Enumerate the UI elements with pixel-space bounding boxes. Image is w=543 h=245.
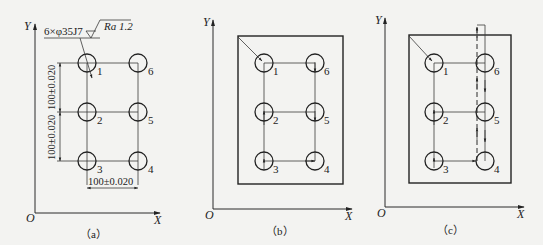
figure-canvas: Y O X 1 2 3 4 5 6 6×φ35J7 — [0, 0, 543, 245]
hole-label-4: 4 — [148, 163, 154, 175]
hole-label-5: 5 — [494, 114, 500, 126]
hole-label-1: 1 — [97, 65, 103, 77]
panel-c: Y O X — [375, 13, 525, 236]
hole-label-6: 6 — [148, 65, 154, 77]
roughness-text: Ra 1.2 — [103, 20, 133, 32]
figure-svg: Y O X 1 2 3 4 5 6 6×φ35J7 — [0, 0, 543, 245]
dim-vertical-lower: 100±0.020 — [46, 115, 57, 160]
dim-vertical-upper: 100±0.020 — [46, 65, 57, 110]
workpiece-outline — [238, 36, 343, 184]
caption-a: （a） — [80, 228, 107, 240]
caption-c: （c） — [437, 224, 464, 236]
y-axis-label: Y — [203, 15, 211, 29]
hole-label-2: 2 — [273, 114, 279, 126]
hole-label-5: 5 — [324, 114, 330, 126]
x-axis-label: X — [516, 207, 525, 221]
origin-label: O — [26, 211, 35, 225]
tool-path — [409, 25, 485, 168]
hole-label-3: 3 — [443, 163, 449, 175]
hole-label-6: 6 — [494, 65, 500, 77]
origin-label: O — [205, 208, 214, 222]
y-axis-label: Y — [24, 19, 32, 33]
origin-label: O — [377, 206, 386, 220]
hole-label-3: 3 — [273, 163, 279, 175]
roughness-symbol: Ra 1.2 — [86, 20, 133, 38]
horizontal-dimension: 100±0.020 — [87, 176, 138, 188]
caption-b: （b） — [266, 225, 294, 237]
y-axis-label: Y — [375, 13, 383, 27]
dim-horizontal: 100±0.020 — [88, 176, 133, 187]
hole-label-5: 5 — [148, 114, 154, 126]
panel-b: Y O X 1 2 3 4 5 6 — [203, 15, 353, 237]
hole-label-6: 6 — [324, 65, 330, 77]
hole-label-1: 1 — [443, 65, 449, 77]
hole-label-4: 4 — [324, 163, 330, 175]
hole-label-2: 2 — [443, 114, 449, 126]
hole-label-1: 1 — [273, 65, 279, 77]
hole-label-2: 2 — [97, 114, 103, 126]
hole-label-4: 4 — [494, 163, 500, 175]
hole-callout-text: 6×φ35J7 — [44, 25, 83, 37]
hole-label-3: 3 — [97, 163, 103, 175]
tool-path — [238, 37, 315, 170]
panel-a: Y O X 1 2 3 4 5 6 6×φ35J7 — [24, 19, 162, 240]
x-axis-label: X — [153, 213, 162, 227]
x-axis-label: X — [344, 209, 353, 223]
